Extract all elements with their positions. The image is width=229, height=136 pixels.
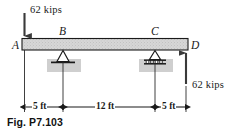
point-label-B: B bbox=[59, 26, 66, 38]
point-label-D: D bbox=[191, 40, 199, 52]
load-label-A: 62 kips bbox=[30, 5, 62, 16]
point-label-C: C bbox=[151, 26, 159, 38]
dimension-label-B-to-C: 12 ft bbox=[95, 102, 115, 112]
figure-caption: Fig. P7.103 bbox=[7, 117, 63, 128]
beam-diagram-figure: 62 kips 62 kips A B C D 5 ft 12 ft 5 ft … bbox=[0, 0, 229, 136]
roller-support-C bbox=[144, 51, 166, 64]
dimension-label-A-to-B: 5 ft bbox=[32, 102, 47, 112]
dimension-label-C-to-D: 5 ft bbox=[161, 102, 176, 112]
point-label-A: A bbox=[12, 40, 19, 52]
load-label-D: 62 kips bbox=[192, 80, 224, 91]
beam-body bbox=[22, 39, 188, 51]
